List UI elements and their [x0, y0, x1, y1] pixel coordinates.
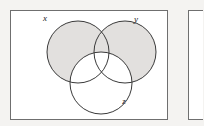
- venn-diagram-figure: x y z: [0, 0, 203, 126]
- set-z-label: z: [121, 96, 126, 106]
- figure-stage: x y z: [0, 0, 203, 126]
- set-x-label: x: [42, 13, 47, 23]
- panel-b-frame: [189, 11, 204, 120]
- set-y-label: y: [133, 14, 138, 24]
